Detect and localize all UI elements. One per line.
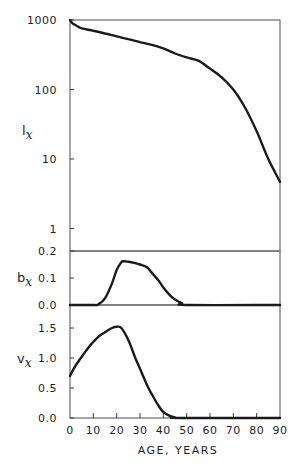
bx-panel-frame [70, 251, 280, 305]
x-tick-label: 40 [156, 424, 171, 437]
lx-axis-label: lx [22, 123, 33, 142]
y-tick-label: 1 [50, 223, 58, 236]
life-table-figure: 10001001010.20.10.01.51.00.50.0010203040… [0, 0, 299, 472]
x-tick-label: 60 [203, 424, 218, 437]
vx-panel-frame [70, 305, 280, 418]
y-tick-label: 0.0 [38, 412, 57, 425]
lx-survivorship-curve [70, 20, 280, 182]
x-axis-label: AGE, YEARS [138, 444, 219, 457]
y-tick-label: 0.0 [38, 299, 57, 312]
y-tick-label: 0.2 [38, 245, 57, 258]
y-tick-label: 0.5 [38, 382, 57, 395]
vx-axis-label: vx [17, 351, 32, 370]
tick-labels: 10001001010.20.10.01.51.00.50.0010203040… [27, 14, 288, 437]
x-tick-label: 10 [86, 424, 101, 437]
x-tick-label: 80 [249, 424, 264, 437]
vx-reproductive-value-curve [70, 327, 280, 418]
y-tick-label: 0.1 [38, 272, 57, 285]
y-tick-label: 100 [35, 84, 58, 97]
x-tick-label: 30 [133, 424, 148, 437]
x-tick-label: 0 [66, 424, 74, 437]
x-tick-label: 20 [109, 424, 124, 437]
tick-marks [70, 20, 257, 418]
y-tick-label: 1000 [27, 14, 57, 27]
x-tick-label: 70 [226, 424, 241, 437]
x-tick-label: 90 [273, 424, 288, 437]
bx-fecundity-curve [70, 261, 280, 305]
y-tick-label: 10 [42, 153, 57, 166]
y-tick-label: 1.0 [38, 352, 57, 365]
x-tick-label: 50 [179, 424, 194, 437]
bx-axis-label: bx [17, 270, 32, 289]
y-tick-label: 1.5 [38, 322, 57, 335]
